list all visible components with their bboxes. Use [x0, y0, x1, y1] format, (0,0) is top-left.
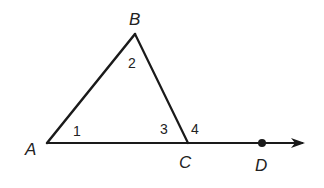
angle-label-4: 4 — [191, 121, 199, 137]
point-d-dot — [258, 139, 266, 147]
angle-label-2: 2 — [128, 55, 136, 71]
vertex-label-b: B — [129, 10, 140, 29]
vertex-label-a: A — [24, 140, 36, 159]
vertex-label-c: C — [179, 153, 192, 172]
vertex-label-d: D — [255, 156, 267, 175]
angle-label-1: 1 — [73, 123, 81, 139]
geometry-diagram: A B C D 1 2 3 4 — [0, 0, 324, 188]
segment-ab — [47, 34, 135, 143]
angle-label-3: 3 — [160, 121, 168, 137]
